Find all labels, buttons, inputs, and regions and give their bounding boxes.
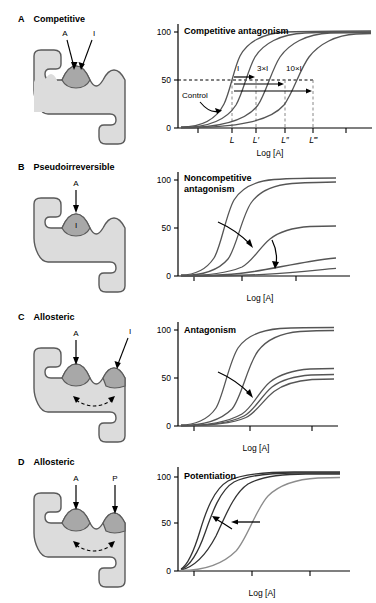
curve-allosteric-3	[181, 375, 334, 426]
panel-letter: D	[18, 457, 25, 467]
panel-c-header: C Allosteric	[18, 312, 75, 322]
y-tick-100: 100	[157, 325, 171, 335]
chart-allosteric-potentiation: 0 50 100 Potentiation Log [A] % Max	[150, 459, 376, 602]
receptor-diagram-competitive: A I	[18, 26, 148, 154]
receptor-diagram-allosteric-potentiation: A P	[18, 469, 148, 597]
agonist-label-group: A	[73, 179, 79, 213]
y-tick-0: 0	[166, 271, 171, 281]
y-tick-50: 50	[162, 518, 172, 528]
panel-letter: B	[18, 162, 25, 172]
curve-inhibitor-3x	[181, 33, 371, 128]
inhibitor-label-group: I	[115, 327, 132, 369]
x-axis-label: Log [A]	[243, 443, 270, 453]
inhibitor-3x-label: 3×I	[257, 64, 268, 73]
x-axis-label: Log [A]	[249, 588, 276, 598]
chart-title-line2: antagonism	[184, 184, 235, 194]
x-axis-label: Log [A]	[257, 148, 284, 158]
site-label-inhibitor: I	[129, 327, 131, 336]
site-label-agonist: A	[73, 474, 79, 483]
y-tick-0: 0	[166, 123, 171, 133]
curve-potentiator-3	[181, 472, 340, 569]
chart-allosteric-antagonism: 0 50 100 Antagonism Log [A] % Maximal Ef…	[150, 314, 376, 457]
site-label-agonist: A	[73, 329, 79, 338]
chart-competitive-antagonism: 0 50 100 Competitive	[150, 16, 376, 159]
inhibitor-label-group: I	[79, 29, 96, 70]
panel-title: Competitive	[34, 14, 86, 24]
panel-pseudoirreversible: B Pseudoirreversible A I 0 5	[0, 162, 376, 307]
annotation-shift-1x: I	[234, 64, 255, 80]
y-tick-100: 100	[157, 175, 171, 185]
site-label-agonist: A	[62, 29, 68, 38]
site-label-inhibitor: I	[93, 29, 95, 38]
panel-d-header: D Allosteric	[18, 457, 75, 467]
panel-title: Allosteric	[34, 312, 75, 322]
y-tick-100: 100	[157, 27, 171, 37]
annotation-arrow-shift	[218, 372, 253, 398]
y-tick-0: 0	[166, 421, 171, 431]
control-label: Control	[182, 91, 208, 100]
dose-response-curves	[181, 31, 371, 128]
panel-title: Allosteric	[34, 457, 75, 467]
panel-letter: C	[18, 312, 25, 322]
panel-a-header: A Competitive	[18, 14, 85, 24]
receptor-body	[34, 198, 125, 292]
panel-allosteric-potentiation: D Allosteric A P	[0, 457, 376, 602]
receptor-body	[34, 493, 125, 587]
curve-potentiator-2	[181, 473, 340, 570]
receptor-body	[34, 348, 125, 442]
annotation-control: Control	[182, 91, 222, 114]
inhibitor-10x-label: 10×I	[286, 64, 302, 73]
site-label-potentiator: P	[112, 474, 117, 483]
panel-allosteric-antagonism: C Allosteric A I	[0, 312, 376, 457]
receptor-diagram-allosteric-antagonism: A I	[18, 324, 148, 452]
receptor-binding-pocket	[62, 66, 90, 88]
panel-b-header: B Pseudoirreversible	[18, 162, 115, 172]
chart-title: Competitive antagonism	[184, 26, 289, 36]
x-tick-label-L-double-prime: L″	[281, 135, 290, 145]
x-axis-label: Log [A]	[247, 293, 274, 303]
panel-letter: A	[18, 14, 25, 24]
curve-potentiator-1	[181, 474, 340, 570]
curve-inhibitor-10x	[181, 34, 371, 128]
curve-allosteric-1	[181, 331, 334, 426]
curve-control	[181, 478, 340, 571]
inhibitor-1x-label: I	[237, 64, 239, 73]
y-tick-100: 100	[157, 472, 171, 482]
site-label-agonist: A	[73, 179, 79, 188]
y-tick-50: 50	[162, 75, 172, 85]
curve-inhibitor-1x	[181, 32, 371, 128]
curve-allosteric-2	[181, 369, 334, 426]
agonist-label-group: A	[73, 329, 79, 365]
site-label-inhibitor: I	[75, 221, 77, 230]
y-tick-50: 50	[162, 373, 172, 383]
potentiator-label-group: P	[112, 474, 118, 514]
annotation-arrow-leftshift-2	[231, 520, 260, 525]
chart-title-line1: Noncompetitive	[184, 173, 252, 183]
receptor-diagram-pseudoirreversible: A I	[18, 174, 148, 302]
annotation-shift-3x: 3×I	[234, 64, 284, 87]
curve-control	[181, 328, 334, 426]
x-tick-label-L-prime: L′	[253, 135, 260, 145]
y-tick-50: 50	[162, 223, 172, 233]
x-tick-label-L-triple-prime: L‴	[309, 135, 318, 145]
agonist-label-group: A	[73, 474, 79, 510]
chart-title: Potentiation	[184, 471, 236, 481]
annotation-arrow-depression-2	[272, 240, 279, 269]
dose-response-curves	[181, 472, 340, 571]
chart-title: Antagonism	[184, 325, 236, 335]
panel-title: Pseudoirreversible	[34, 162, 115, 172]
panel-competitive: A Competitive A I	[0, 14, 376, 159]
x-tick-label-L: L	[230, 135, 235, 145]
agonist-label-group: A	[62, 29, 77, 70]
dose-response-curves	[181, 328, 334, 426]
y-tick-0: 0	[166, 566, 171, 576]
annotation-arrow-leftshift-1	[212, 516, 232, 529]
chart-noncompetitive-antagonism: 0 50 100 Noncompetitive antagonism	[150, 164, 376, 307]
